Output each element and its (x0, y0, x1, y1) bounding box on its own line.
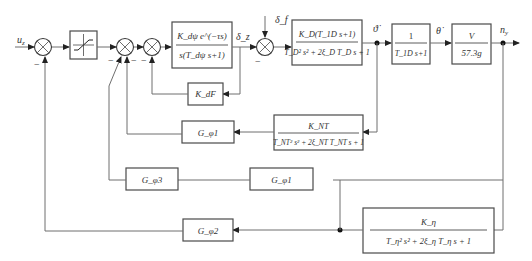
lag-numerator: 1 (409, 31, 414, 41)
kdf-block: K_dF (188, 83, 223, 105)
summing-junction-4 (257, 39, 274, 56)
minus-sign-2b: − (131, 55, 137, 66)
output-label: ny (500, 24, 509, 37)
g-phi-mid-label: G_φ1 (271, 175, 291, 185)
lag-denominator: T_1D s+1 (395, 49, 428, 58)
g-phi2-return-wire (45, 57, 183, 231)
accel-numerator: K_η (420, 217, 437, 227)
g-phi1-block: G_φ1 (182, 121, 234, 143)
summing-junction-3 (144, 39, 161, 56)
minus-sign-2a: − (108, 55, 114, 66)
gyro-numerator: K_NT (307, 121, 330, 131)
airframe-numerator: K_D(T_1D s+1) (298, 29, 356, 39)
theta-ddot-label: ϑ̇ (373, 23, 381, 34)
g-phi3-label: G_φ3 (142, 175, 163, 185)
saturation-block (70, 31, 97, 59)
accel-wire (494, 180, 503, 230)
actuator-block: K_dψ e^(−τs) s(T_dψ s+1) (172, 22, 232, 68)
velocity-gain-block: V 57.3g (452, 24, 491, 64)
block-diagram: uz − − − − K_dψ e^(−τs) s(T_dψ s+1) δ_z (0, 0, 532, 261)
summing-junction-2 (117, 39, 134, 56)
minus-sign-1: − (34, 59, 40, 70)
gyro-block: K_NT T_NT² s² + 2ξ_NT T_NT s + 1 (273, 115, 364, 150)
airframe-denominator: T_D² s² + 2ξ_D T_D s + 1 (284, 48, 369, 57)
delta-f-label: δ_f (275, 14, 289, 25)
actuator-denominator: s(T_dψ s+1) (179, 50, 224, 60)
g-phi2-label: G_φ2 (198, 226, 219, 236)
g-phi2-block: G_φ2 (183, 219, 233, 241)
kdf-label: K_dF (194, 89, 216, 99)
minus-sign-4: − (255, 56, 261, 67)
velocity-gain-denominator: 57.3g (461, 48, 482, 58)
airframe-block: K_D(T_1D s+1) T_D² s² + 2ξ_D T_D s + 1 (284, 20, 369, 65)
accelerometer-block: K_η T_η² s² + 2ξ_η T_η s + 1 (363, 208, 494, 253)
g-phi1-label: G_φ1 (198, 128, 218, 138)
lag-block: 1 T_1D s+1 (392, 24, 430, 64)
actuator-numerator: K_dψ e^(−τs) (176, 31, 226, 41)
gyro-denominator: T_NT² s² + 2ξ_NT T_NT s + 1 (273, 138, 364, 147)
input-label: uz (17, 34, 25, 47)
minus-sign-3: − (141, 55, 147, 66)
summing-junction-1 (35, 39, 52, 56)
g-phi3-return-wire (109, 57, 126, 180)
g-phi3-block: G_φ3 (126, 168, 178, 190)
diagram-canvas: uz − − − − K_dψ e^(−τs) s(T_dψ s+1) δ_z (0, 0, 532, 261)
g-phi-mid-block: G_φ1 (250, 168, 313, 190)
delta-z-label: δ_z (236, 31, 250, 42)
accel-denominator: T_η² s² + 2ξ_η T_η s + 1 (386, 236, 471, 246)
theta-dot-label: θ̇ (436, 25, 444, 36)
